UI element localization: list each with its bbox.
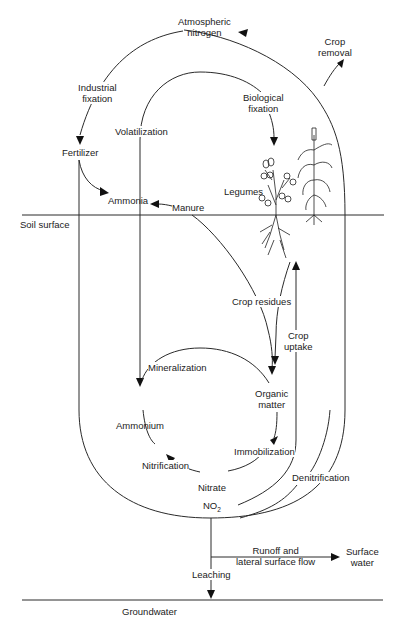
- arrow-mineralization-down: [136, 378, 144, 387]
- denitrification-lower-path: [240, 485, 297, 518]
- nitrogen-cycle-diagram: [0, 0, 399, 630]
- no2-text: NO: [203, 500, 217, 511]
- surface-water-label: Surface water: [346, 546, 379, 568]
- denitrification-label: Denitrification: [292, 472, 350, 483]
- ammonium-label: Ammonium: [116, 420, 164, 431]
- arrow-atmospheric-nitrogen: [238, 29, 248, 37]
- arrow-fertilizer: [76, 136, 84, 145]
- nitrate-label: Nitrate: [198, 482, 226, 493]
- soil-surface-label: Soil surface: [20, 219, 70, 230]
- arrow-manure-ammonia: [150, 200, 159, 208]
- no2-subscript: 2: [217, 506, 221, 513]
- leaching-label: Leaching: [192, 569, 231, 580]
- manure-organic-path: [192, 215, 272, 368]
- corn-plant-illustration: [298, 128, 332, 225]
- arrow-organic-1: [268, 366, 276, 375]
- arrow-crop-removal: [337, 59, 344, 68]
- fertilizer-ammonia-path: [79, 160, 104, 191]
- no2-label: NO2: [203, 500, 221, 515]
- arrow-legumes: [270, 137, 278, 146]
- mineralization-label: Mineralization: [148, 362, 207, 373]
- industrial-fixation-label: Industrial fixation: [78, 82, 117, 104]
- nitrification-label: Nitrification: [142, 460, 189, 471]
- atmospheric-nitrogen-label: Atmospheric nitrogen: [178, 16, 231, 38]
- organic-matter-label: Organic matter: [255, 388, 288, 410]
- crop-uptake-label: Crop uptake: [284, 330, 313, 352]
- denitrification-path: [305, 410, 330, 478]
- legumes-label: Legumes: [224, 186, 263, 197]
- manure-ammonia-path: [158, 204, 172, 206]
- crop-removal-path: [324, 63, 340, 86]
- legume-plant-illustration: [259, 158, 296, 258]
- groundwater-label: Groundwater: [122, 606, 177, 617]
- fertilizer-label: Fertilizer: [62, 147, 98, 158]
- crop-removal-label: Crop removal: [318, 36, 352, 58]
- crop-residues-label: Crop residues: [232, 296, 291, 307]
- arrow-runoff: [331, 553, 340, 561]
- arrow-crop-uptake: [292, 261, 300, 270]
- runoff-label: Runoff and lateral surface flow: [236, 545, 315, 567]
- arrow-leaching: [207, 590, 215, 599]
- manure-label: Manure: [172, 202, 204, 213]
- ammonia-label: Ammonia: [108, 195, 148, 206]
- biological-fixation-path: [268, 110, 274, 138]
- organic-immobilization-path: [274, 412, 277, 438]
- volatilization-label: Volatilization: [115, 126, 168, 137]
- biological-fixation-label: Biological fixation: [243, 92, 284, 114]
- immobilization-label: Immobilization: [234, 446, 295, 457]
- outer-cycle-path: [79, 30, 345, 518]
